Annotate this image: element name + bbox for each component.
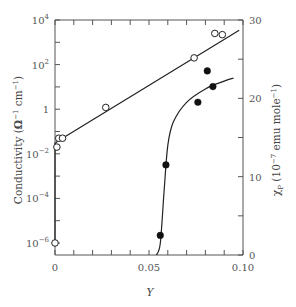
axis-ticks (55, 20, 243, 255)
chi-point (210, 83, 217, 90)
y-right-tick-label: 10 (249, 172, 262, 183)
plot-frame (55, 20, 243, 255)
y-left-tick-label: 10−6 (26, 236, 50, 249)
conductivity-point (54, 144, 61, 151)
conductivity-point (212, 30, 219, 37)
conductivity-point (102, 104, 109, 111)
chi-point (195, 99, 202, 106)
conductivity-point (219, 31, 226, 38)
chi-point (157, 232, 164, 239)
conductivity-point (191, 55, 198, 62)
x-tick-label: 0.10 (232, 262, 254, 273)
y-left-tick-label: 10−2 (26, 147, 49, 160)
y-right-tick-label: 30 (249, 15, 262, 26)
data-points (52, 30, 226, 246)
conductivity-fit-line (55, 30, 239, 243)
chi-point (163, 162, 170, 169)
y-right-axis-title: χP (10−7 emu mole−1) (270, 84, 285, 196)
chi-point (204, 68, 211, 75)
y-left-tick-label: 1 (43, 104, 49, 115)
y-left-tick-label: 102 (32, 58, 49, 71)
x-tick-labels: 00.050.10 (52, 262, 254, 273)
x-axis-title: Y (147, 286, 155, 298)
y-right-tick-label: 20 (249, 93, 262, 104)
y-left-axis-title: Conductivity (Ω−1 cm−1) (12, 76, 24, 204)
y-left-tick-labels: 104102110−210−410−6 (26, 13, 50, 249)
x-tick-label: 0 (52, 262, 58, 273)
conductivity-point (52, 240, 59, 247)
conductivity-point (59, 135, 66, 142)
chart: 00.050.10 104102110−210−410−6 3020100 Y … (0, 0, 296, 307)
fit-lines (55, 30, 239, 255)
axes-box (55, 20, 243, 255)
x-tick-label: 0.05 (138, 262, 160, 273)
y-right-tick-labels: 3020100 (249, 15, 262, 261)
y-left-tick-label: 10−4 (26, 191, 50, 204)
y-right-tick-label: 0 (249, 250, 255, 261)
y-left-tick-label: 104 (32, 13, 50, 26)
